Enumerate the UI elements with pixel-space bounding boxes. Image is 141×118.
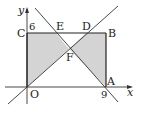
point-label-E: E [56, 20, 64, 33]
y-tick-label: 6 [29, 21, 35, 32]
y-axis-label: y [17, 4, 25, 17]
shaded-region-right [69, 33, 106, 87]
point-label-D: D [82, 20, 91, 33]
coordinate-diagram: y x 6 9 C E D B F A O [0, 0, 141, 118]
y-axis-arrow-icon [25, 7, 29, 13]
point-label-A: A [106, 75, 116, 88]
shaded-region-left [27, 33, 69, 87]
point-label-B: B [108, 27, 116, 40]
x-tick-label: 9 [101, 89, 107, 100]
x-axis-label: x [127, 86, 134, 99]
point-label-F: F [66, 51, 74, 64]
point-label-C: C [17, 27, 25, 40]
point-label-O: O [30, 88, 39, 101]
